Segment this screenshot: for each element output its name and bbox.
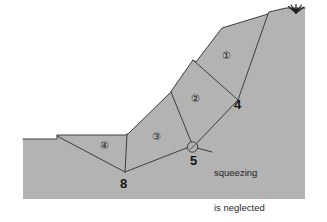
- block-1-label: ①: [222, 51, 231, 61]
- excavation-notch-left: [23, 134, 57, 138]
- squeezing-annotation-line-2: is neglected: [214, 202, 265, 214]
- node-4-label: 4: [234, 98, 241, 112]
- squeezing-annotation: squeezing is neglected: [214, 144, 265, 222]
- node-5-label: 5: [190, 154, 197, 168]
- node-5-hinge-marker: [187, 142, 197, 152]
- slope-failure-figure: ① ② ③ ④ 4 5 8 squeezing is neglected: [0, 0, 327, 222]
- squeezing-annotation-line-1: squeezing: [214, 167, 265, 179]
- figure-canvas: [0, 0, 327, 222]
- block-3-label: ③: [152, 132, 161, 142]
- block-4-label: ④: [100, 141, 109, 151]
- node-8-label: 8: [120, 177, 127, 191]
- block-2-label: ②: [191, 94, 200, 104]
